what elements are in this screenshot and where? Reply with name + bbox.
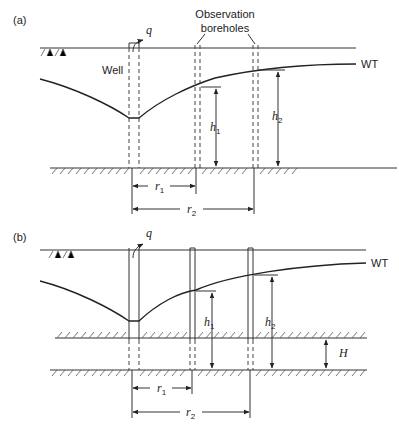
h2-label: h2 bbox=[265, 315, 276, 331]
piezometric-surface-curve bbox=[40, 263, 366, 321]
aquifer-thickness-label: H bbox=[338, 346, 349, 360]
discharge-arrow-icon bbox=[133, 40, 143, 52]
wt-label: WT bbox=[371, 257, 388, 269]
h2-label: h2 bbox=[272, 109, 283, 125]
panel-a: (a) q Well Observation boreholes WT bbox=[13, 8, 397, 218]
discharge-label: q bbox=[146, 23, 152, 37]
r2-label: r2 bbox=[186, 405, 196, 421]
r1-label: r1 bbox=[157, 381, 167, 397]
well-label: Well bbox=[102, 64, 123, 76]
base-hatching bbox=[52, 370, 365, 376]
h1-label: h1 bbox=[210, 120, 221, 136]
panel-b-label: (b) bbox=[13, 231, 26, 243]
discharge-arrow-icon bbox=[133, 244, 143, 258]
water-table-curve bbox=[40, 64, 356, 118]
r2-label: r2 bbox=[187, 202, 197, 218]
base-hatching bbox=[52, 168, 297, 174]
panel-a-label: (a) bbox=[13, 14, 26, 26]
r1-label: r1 bbox=[155, 179, 165, 195]
wt-label: WT bbox=[361, 58, 378, 70]
observation-label-line1: Observation bbox=[195, 8, 254, 20]
discharge-label: q bbox=[146, 226, 152, 240]
h1-label: h1 bbox=[204, 315, 215, 331]
observation-label-line2: boreholes bbox=[201, 22, 250, 34]
well-pumping-diagram: (a) q Well Observation boreholes WT bbox=[0, 0, 399, 429]
panel-b: (b) q WT bbox=[13, 226, 388, 421]
ground-symbol-icon bbox=[49, 251, 74, 258]
upper-confining-hatching bbox=[57, 332, 365, 338]
ground-symbol-icon bbox=[41, 49, 66, 56]
